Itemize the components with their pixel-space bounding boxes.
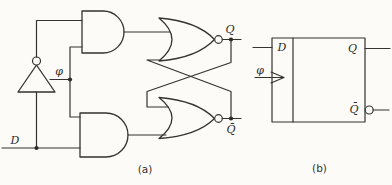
wire-inverter-to-and: [37, 21, 83, 58]
wire-phi-branch: [70, 47, 82, 117]
label-d-input: D: [10, 134, 20, 147]
label-qbar-output: Q̄: [226, 123, 235, 136]
label-q-output: Q: [225, 23, 234, 36]
qbar-inversion-bubble: [365, 106, 373, 114]
label-phi-input: φ: [55, 65, 63, 78]
panel-a-gate-circuit: D φ Q Q̄ (a): [2, 11, 241, 175]
and-gate-top: [82, 11, 124, 53]
label-q-output-b: Q: [348, 42, 357, 55]
circuit-diagram-svg: D φ Q Q̄ (a) D φ Q Q̄ (b): [0, 0, 392, 185]
nor-gate-top-bubble: [215, 36, 223, 44]
and-gate-bottom: [80, 113, 128, 157]
not-gate-bubble: [33, 57, 41, 65]
junction-dot-d: [34, 146, 38, 150]
caption-b: (b): [312, 162, 327, 174]
nor-gate-bottom-bubble: [215, 115, 223, 123]
nor-gate-top: [159, 18, 215, 61]
label-qbar-output-b: Q̄: [349, 102, 358, 115]
label-d-input-b: D: [277, 41, 287, 54]
caption-a: (a): [138, 163, 153, 175]
label-phi-input-b: φ: [256, 64, 264, 77]
nor-gate-bottom: [159, 98, 215, 139]
circuit-figure: D φ Q Q̄ (a) D φ Q Q̄ (b): [0, 0, 392, 185]
wire-feedback-qbar-to-top-nor: [147, 60, 231, 119]
not-gate: [18, 65, 55, 92]
panel-b-block-symbol: D φ Q Q̄ (b): [253, 38, 390, 174]
wire-feedback-q-to-bottom-nor: [147, 40, 231, 108]
